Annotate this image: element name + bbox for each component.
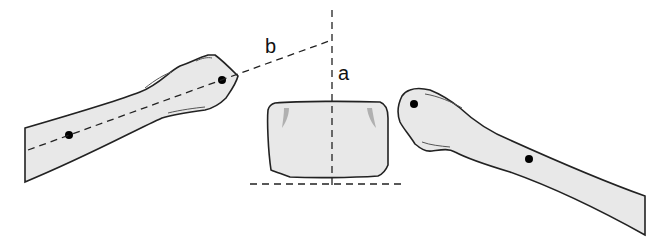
right-bone-shape — [398, 89, 645, 236]
label-b: b — [265, 35, 276, 57]
left-bone — [25, 55, 238, 182]
right-bone-dot-proximal — [410, 100, 418, 108]
right-bone-dot-distal — [525, 155, 533, 163]
label-a: a — [338, 62, 350, 84]
left-bone-shape — [25, 55, 238, 182]
right-bone — [398, 89, 645, 236]
diagram-canvas: b a — [0, 0, 669, 240]
center-block — [268, 101, 388, 177]
left-bone-dot-proximal — [65, 131, 73, 139]
